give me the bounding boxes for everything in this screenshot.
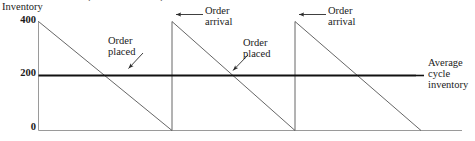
y-tick-label-400: 400 [12, 15, 36, 26]
inventory-cycle-chart: .. [0, 0, 475, 141]
annotation-order-placed-1: Order placed [108, 36, 135, 58]
y-tick-label-0: 0 [12, 122, 36, 133]
y-tick-label-200: 200 [12, 68, 36, 79]
annotation-order-arrival-2-line2: arrival [328, 17, 355, 28]
annotation-order-placed-2-line2: placed [243, 49, 270, 60]
annotation-average-cycle-inventory-line3: inventory [428, 80, 468, 91]
annotation-average-cycle-inventory: Average cycle inventory [428, 58, 468, 91]
annotation-order-placed-1-line2: placed [108, 47, 135, 58]
chart-plot-area [0, 0, 475, 141]
annotation-order-arrival-1: Order arrival [205, 6, 232, 28]
annotation-order-placed-2: Order placed [243, 38, 270, 60]
annotation-order-arrival-1-line2: arrival [205, 17, 232, 28]
annotation-order-arrival-2: Order arrival [328, 6, 355, 28]
y-axis-title: Inventory [2, 2, 43, 13]
